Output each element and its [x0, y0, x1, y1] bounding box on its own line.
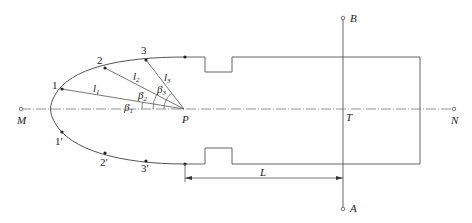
dim-arrow-right — [336, 176, 343, 180]
label-L: L — [259, 166, 266, 178]
label-point-3-prime: 3′ — [141, 162, 149, 174]
point-N-marker — [452, 107, 456, 111]
point-A-marker — [341, 207, 345, 211]
label-beta2: β2 — [137, 89, 147, 103]
dim-arrow-left — [185, 176, 192, 180]
label-point-1-prime: 1′ — [55, 135, 63, 147]
point-upper-end — [183, 55, 186, 58]
point-2-prime — [103, 151, 106, 154]
label-point-3: 3 — [141, 44, 147, 56]
diagram-canvas: M N P T B A L 1 2 3 1′ 2′ 3′ l1 l2 l3 β1… — [0, 0, 472, 223]
angle-arc-b2 — [153, 95, 157, 109]
point-1 — [60, 87, 63, 90]
label-A: A — [349, 202, 357, 214]
point-B-marker — [341, 16, 345, 20]
point-1-prime — [60, 130, 63, 133]
point-M-marker — [19, 107, 23, 111]
label-beta1: β1 — [123, 101, 133, 115]
label-point-2-prime: 2′ — [100, 156, 108, 168]
label-point-1: 1 — [52, 79, 58, 91]
label-beta3: β3 — [156, 83, 166, 97]
point-3 — [144, 58, 147, 61]
label-l2: l2 — [133, 70, 140, 84]
point-2 — [103, 66, 106, 69]
label-l3: l3 — [164, 71, 171, 85]
label-l1: l1 — [93, 82, 100, 96]
label-P: P — [181, 113, 189, 125]
label-B: B — [350, 12, 357, 24]
label-N: N — [450, 114, 459, 126]
label-M: M — [16, 114, 27, 126]
label-point-2: 2 — [97, 54, 103, 66]
body-outline-upper — [185, 57, 420, 164]
angle-arc-b1 — [142, 102, 143, 109]
label-T: T — [346, 111, 353, 123]
